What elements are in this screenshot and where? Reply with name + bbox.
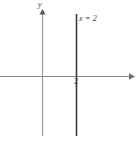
x-axis-arrowhead-icon xyxy=(129,73,135,80)
coordinate-plane-svg xyxy=(0,0,137,141)
x-axis-tick-label-2: 2 xyxy=(74,78,78,86)
graph-figure: y x = 2 2 xyxy=(0,0,137,141)
y-axis-arrowhead-icon xyxy=(39,9,45,15)
y-axis-label: y xyxy=(38,1,42,9)
line-equation-label: x = 2 xyxy=(79,15,97,23)
